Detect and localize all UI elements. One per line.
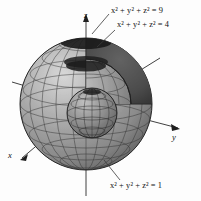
z-axis-label: z [84, 10, 87, 20]
inner-sphere-cap [83, 89, 101, 95]
inner-sphere [67, 88, 117, 138]
outer-sphere-equation-label: x² + y² + z² = 9 [111, 6, 163, 15]
middle-sphere-cap [66, 61, 106, 72]
y-axis-arrow-icon [171, 124, 180, 131]
middle-sphere-equation-label: x² + y² + z² = 4 [117, 20, 169, 29]
x-axis-arrow-icon [20, 154, 28, 161]
leader-line-outer [92, 14, 109, 34]
y-axis-label: y [172, 132, 176, 142]
x-axis-label: x [8, 150, 12, 160]
inner-sphere-equation-label: x² + y² + z² = 1 [110, 181, 162, 190]
sphere-figure: x² + y² + z² = 9 x² + y² + z² = 4 x² + y… [0, 0, 201, 201]
figure-canvas [0, 0, 201, 201]
